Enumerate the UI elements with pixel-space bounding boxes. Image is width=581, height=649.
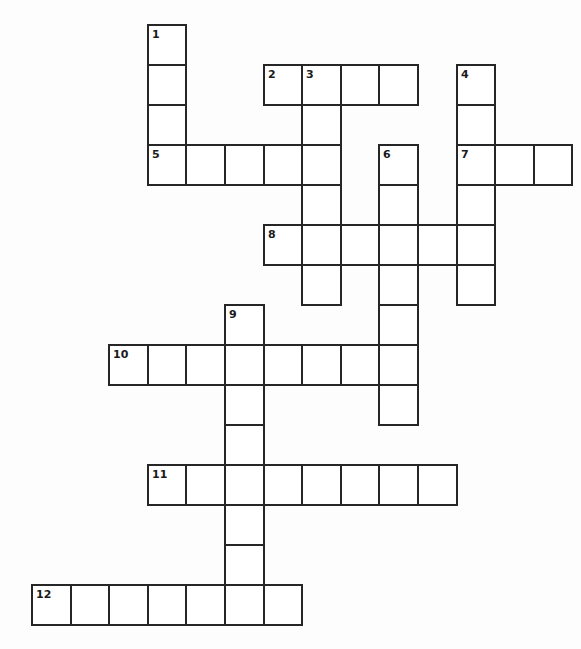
- crossword-cell[interactable]: [340, 344, 380, 386]
- crossword-cell[interactable]: [147, 344, 187, 386]
- crossword-cell[interactable]: [378, 224, 419, 266]
- crossword-cell[interactable]: [378, 184, 419, 226]
- crossword-cell[interactable]: [417, 464, 458, 506]
- crossword-cell[interactable]: [263, 584, 303, 626]
- crossword-cell[interactable]: 4: [456, 64, 496, 106]
- crossword-cell[interactable]: [147, 64, 187, 106]
- crossword-cell[interactable]: 1: [147, 24, 187, 66]
- clue-number: 7: [461, 149, 469, 160]
- crossword-cell[interactable]: 8: [263, 224, 303, 266]
- crossword-cell[interactable]: 5: [147, 144, 187, 186]
- crossword-cell[interactable]: [263, 344, 303, 386]
- crossword-cell[interactable]: [378, 304, 419, 346]
- crossword-cell[interactable]: 6: [378, 144, 419, 186]
- crossword-cell[interactable]: [340, 64, 380, 106]
- crossword-cell[interactable]: [301, 264, 342, 306]
- crossword-cell[interactable]: [456, 264, 496, 306]
- clue-number: 11: [152, 469, 167, 480]
- crossword-cell[interactable]: [185, 344, 226, 386]
- crossword-cell[interactable]: 11: [147, 464, 187, 506]
- crossword-cell[interactable]: [147, 584, 187, 626]
- crossword-cell[interactable]: [263, 464, 303, 506]
- crossword-cell[interactable]: [70, 584, 110, 626]
- crossword-cell[interactable]: [185, 464, 226, 506]
- crossword-cell[interactable]: [378, 384, 419, 426]
- crossword-cell[interactable]: [224, 504, 265, 546]
- clue-number: 2: [268, 69, 276, 80]
- clue-number: 4: [461, 69, 469, 80]
- crossword-cell[interactable]: [494, 144, 535, 186]
- crossword-cell[interactable]: [301, 104, 342, 146]
- crossword-cell[interactable]: [417, 224, 458, 266]
- crossword-cell[interactable]: [224, 544, 265, 586]
- crossword-cell[interactable]: [224, 464, 265, 506]
- crossword-cell[interactable]: [533, 144, 573, 186]
- crossword-cell[interactable]: [456, 184, 496, 226]
- crossword-cell[interactable]: 12: [31, 584, 72, 626]
- crossword-cell[interactable]: [224, 424, 265, 466]
- clue-number: 3: [306, 69, 314, 80]
- clue-number: 9: [229, 309, 237, 320]
- crossword-cell[interactable]: [108, 584, 149, 626]
- crossword-cell[interactable]: [263, 144, 303, 186]
- crossword-cell[interactable]: 3: [301, 64, 342, 106]
- crossword-cell[interactable]: [301, 224, 342, 266]
- crossword-cell[interactable]: [378, 64, 419, 106]
- clue-number: 12: [36, 589, 51, 600]
- crossword-cell[interactable]: [378, 464, 419, 506]
- clue-number: 8: [268, 229, 276, 240]
- crossword-cell[interactable]: [185, 144, 226, 186]
- clue-number: 6: [383, 149, 391, 160]
- crossword-cell[interactable]: 10: [108, 344, 149, 386]
- crossword-cell[interactable]: [378, 344, 419, 386]
- clue-number: 5: [152, 149, 160, 160]
- clue-number: 1: [152, 29, 160, 40]
- crossword-cell[interactable]: [301, 144, 342, 186]
- crossword-grid: 152347689101112: [0, 0, 581, 649]
- crossword-cell[interactable]: 9: [224, 304, 265, 346]
- crossword-cell[interactable]: [340, 224, 380, 266]
- crossword-cell[interactable]: [456, 104, 496, 146]
- crossword-cell[interactable]: 2: [263, 64, 303, 106]
- crossword-cell[interactable]: [224, 344, 265, 386]
- crossword-cell[interactable]: [224, 144, 265, 186]
- crossword-cell[interactable]: [456, 224, 496, 266]
- crossword-cell[interactable]: [147, 104, 187, 146]
- crossword-cell[interactable]: [301, 464, 342, 506]
- crossword-cell[interactable]: [224, 384, 265, 426]
- clue-number: 10: [113, 349, 128, 360]
- crossword-cell[interactable]: [185, 584, 226, 626]
- crossword-cell[interactable]: [340, 464, 380, 506]
- crossword-cell[interactable]: [224, 584, 265, 626]
- crossword-cell[interactable]: 7: [456, 144, 496, 186]
- crossword-cell[interactable]: [301, 344, 342, 386]
- crossword-cell[interactable]: [378, 264, 419, 306]
- crossword-cell[interactable]: [301, 184, 342, 226]
